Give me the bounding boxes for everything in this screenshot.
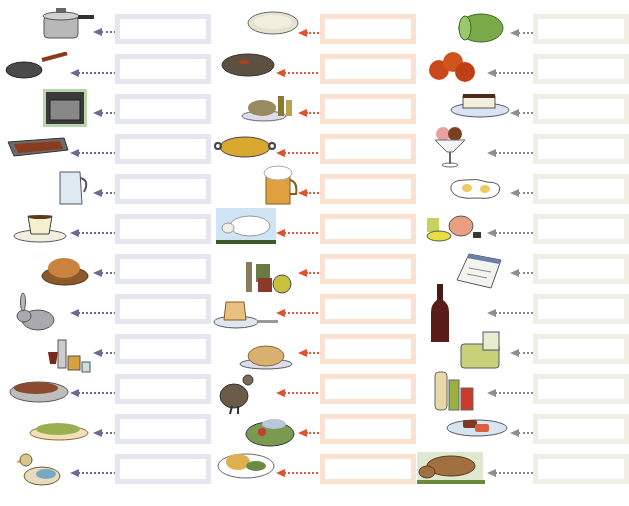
- answer-input[interactable]: [115, 454, 211, 484]
- condiment-jars-icon: [244, 258, 292, 296]
- frying-pan-icon: [4, 52, 70, 80]
- answer-input[interactable]: [320, 134, 416, 164]
- oven-icon: [42, 88, 90, 128]
- sauces-bottles-icon: [433, 370, 475, 414]
- worksheet-row: [210, 12, 415, 52]
- answer-input[interactable]: [115, 134, 211, 164]
- column-dishes: [210, 0, 415, 506]
- seafood-rice-platter-icon: [240, 86, 296, 124]
- stew-pot-icon: [220, 52, 276, 78]
- worksheet-row: [415, 52, 625, 92]
- answer-input[interactable]: [115, 374, 211, 404]
- cheesecake-icon: [449, 88, 511, 118]
- worksheet-row: [0, 412, 205, 452]
- green-beans-dish-icon: [28, 418, 90, 442]
- answer-input[interactable]: [533, 254, 629, 284]
- column-foods-drinks: [415, 0, 625, 506]
- worksheet-row: [210, 92, 415, 132]
- answer-input[interactable]: [533, 374, 629, 404]
- answer-input[interactable]: [320, 374, 416, 404]
- answer-input[interactable]: [533, 454, 629, 484]
- ice-cream-sundae-icon: [431, 124, 471, 168]
- worksheet-row: [415, 332, 625, 372]
- worksheet-row: [210, 452, 415, 492]
- worksheet-row: [415, 292, 625, 332]
- tea-set-icon: [425, 210, 483, 246]
- worksheet-row: [0, 372, 205, 412]
- worksheet-row: [0, 172, 205, 212]
- duck-icon: [16, 450, 62, 490]
- partridge-icon: [216, 372, 256, 416]
- rice-dish-icon: [246, 10, 300, 36]
- worksheet-row: [210, 212, 415, 252]
- tomatoes-icon: [427, 50, 477, 82]
- answer-input[interactable]: [533, 134, 629, 164]
- answer-input[interactable]: [533, 174, 629, 204]
- menu-notepad-icon: [455, 250, 505, 290]
- coffee-cup-icon: [12, 212, 68, 244]
- answer-input[interactable]: [115, 174, 211, 204]
- answer-input[interactable]: [320, 54, 416, 84]
- worksheet-row: [415, 452, 625, 492]
- answer-input[interactable]: [533, 94, 629, 124]
- roast-turkey-icon: [238, 338, 296, 370]
- flan-dessert-icon: [212, 294, 280, 330]
- worksheet-row: [0, 52, 205, 92]
- answer-input[interactable]: [115, 334, 211, 364]
- answer-input[interactable]: [533, 14, 629, 44]
- answer-input[interactable]: [320, 254, 416, 284]
- worksheet-row: [0, 212, 205, 252]
- answer-input[interactable]: [320, 14, 416, 44]
- lettuce-icon: [455, 10, 507, 46]
- beer-mug-icon: [262, 164, 298, 206]
- answer-input[interactable]: [320, 454, 416, 484]
- sheep-icon: [216, 206, 276, 246]
- bull-icon: [417, 446, 485, 486]
- answer-input[interactable]: [320, 334, 416, 364]
- answer-input[interactable]: [115, 54, 211, 84]
- answer-input[interactable]: [115, 294, 211, 324]
- worksheet-row: [0, 252, 205, 292]
- answer-input[interactable]: [115, 14, 211, 44]
- roast-chicken-icon: [40, 250, 90, 288]
- fried-eggs-icon: [447, 176, 505, 202]
- rabbit-icon: [14, 292, 56, 332]
- column-kitchen-items: [0, 0, 205, 506]
- pressure-cooker-icon: [40, 6, 96, 42]
- worksheet-row: [210, 292, 415, 332]
- worksheet-row: [210, 372, 415, 412]
- answer-input[interactable]: [533, 294, 629, 324]
- answer-input[interactable]: [115, 214, 211, 244]
- answer-input[interactable]: [533, 414, 629, 444]
- worksheet-row: [0, 452, 205, 492]
- answer-input[interactable]: [115, 94, 211, 124]
- worksheet-row: [415, 372, 625, 412]
- chicken-salad-plate-icon: [216, 446, 276, 480]
- paella-pan-icon: [214, 134, 276, 160]
- worksheet-row: [210, 252, 415, 292]
- worksheet-row: [0, 12, 205, 52]
- worksheet-row: [415, 172, 625, 212]
- worksheet-row: [0, 132, 205, 172]
- worksheet-row: [0, 292, 205, 332]
- answer-input[interactable]: [320, 294, 416, 324]
- steak-plate-icon: [445, 414, 509, 438]
- answer-input[interactable]: [533, 214, 629, 244]
- answer-input[interactable]: [115, 414, 211, 444]
- answer-input[interactable]: [320, 214, 416, 244]
- answer-input[interactable]: [115, 254, 211, 284]
- answer-input[interactable]: [320, 94, 416, 124]
- worksheet-row: [210, 332, 415, 372]
- worksheet-row: [415, 132, 625, 172]
- answer-input[interactable]: [320, 414, 416, 444]
- fish-salad-plate-icon: [244, 414, 296, 448]
- water-jug-icon: [54, 168, 92, 208]
- worksheet-row: [415, 12, 625, 52]
- answer-input[interactable]: [320, 174, 416, 204]
- grill-tray-icon: [6, 134, 70, 160]
- cheese-icon: [459, 330, 501, 370]
- answer-input[interactable]: [533, 54, 629, 84]
- answer-input[interactable]: [533, 334, 629, 364]
- worksheet-row: [0, 332, 205, 372]
